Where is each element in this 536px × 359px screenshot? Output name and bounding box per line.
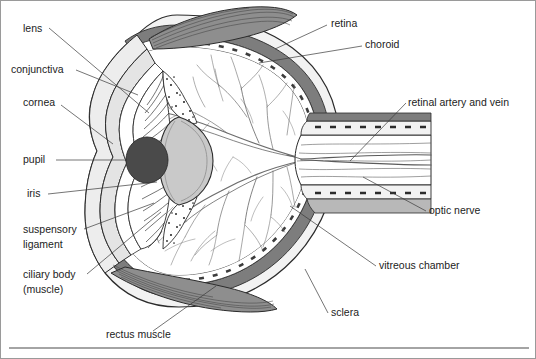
label-pupil: pupil [23,153,45,165]
eye-anatomy-diagram: lens conjunctiva cornea pupil iris suspe… [1,1,536,359]
label-vitreous-chamber: vitreous chamber [379,259,460,271]
figure-canvas: lens conjunctiva cornea pupil iris suspe… [0,0,536,359]
label-sclera: sclera [331,306,359,318]
label-iris: iris [27,187,40,199]
label-cornea: cornea [23,96,55,108]
label-retinal-artery-and-vein: retinal artery and vein [408,96,509,108]
label-ligament: ligament [23,238,63,250]
lead-sclera [305,269,328,313]
label-choroid: choroid [365,38,400,50]
label-optic-nerve: optic nerve [429,204,481,216]
label-ciliary-body: ciliary body [23,268,76,280]
lead-retina [275,25,327,49]
pupil [126,137,168,183]
label-lens: lens [23,22,42,34]
label-muscle-paren: (muscle) [23,283,63,295]
label-suspensory: suspensory [23,223,77,235]
label-conjunctiva: conjunctiva [11,63,64,75]
label-retina: retina [331,17,357,29]
label-rectus-muscle: rectus muscle [106,328,171,340]
